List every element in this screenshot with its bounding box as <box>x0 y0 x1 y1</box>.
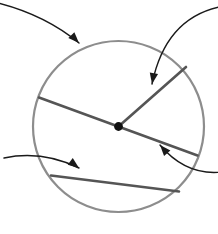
pointer-arrow-to-diameter-curve <box>160 145 218 172</box>
chord-segment <box>51 176 179 192</box>
pointer-arrow-to-circle-curve <box>0 2 79 43</box>
pointer-arrows-group <box>0 2 218 172</box>
pointer-arrow-to-diameter <box>160 145 218 172</box>
center-point-group <box>114 122 123 131</box>
pointer-arrow-to-chord-head <box>68 158 79 168</box>
circle-diagram-svg <box>0 0 218 234</box>
pointer-arrow-to-circle-head <box>68 32 79 43</box>
pointer-arrow-to-circle <box>0 2 79 43</box>
pointer-arrow-to-radius-head <box>150 72 158 84</box>
circle-center-dot <box>114 122 123 131</box>
geometry-diagram-canvas <box>0 0 218 234</box>
